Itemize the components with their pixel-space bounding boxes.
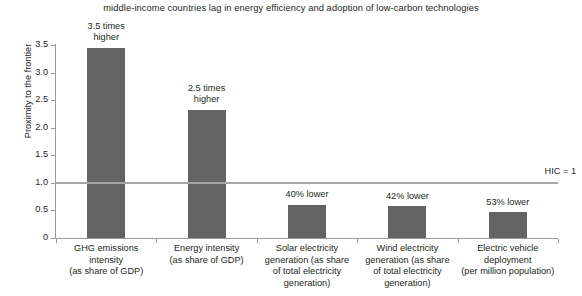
reference-line — [55, 182, 558, 184]
x-category-label-line: intensity — [49, 255, 163, 267]
y-tick-mark — [51, 100, 55, 101]
y-tick-mark — [51, 155, 55, 156]
bar[interactable] — [288, 205, 326, 238]
y-axis-title: Proximity to the frontier — [23, 11, 33, 171]
x-category-label-line: (per million population) — [451, 266, 565, 278]
bar[interactable] — [489, 212, 527, 238]
y-tick-label: 0 — [4, 232, 48, 242]
bar-annotation-line: 3.5 times — [46, 21, 166, 33]
x-category-label-line: deployment — [451, 255, 565, 267]
bar-annotation: 3.5 timeshigher — [46, 21, 166, 44]
x-category-label: Energy intensity(as share of GDP) — [149, 243, 263, 266]
x-category-label-line: of total electricity — [250, 266, 364, 278]
bar[interactable] — [188, 110, 226, 238]
y-tick-label: 1.5 — [4, 149, 48, 159]
x-category-label-line: Solar electricity — [250, 243, 364, 255]
x-category-label-line: GHG emissions — [49, 243, 163, 255]
bar[interactable] — [388, 206, 426, 238]
y-tick-mark — [51, 128, 55, 129]
bar-annotation-line: 2.5 times — [147, 83, 267, 95]
y-axis-line — [55, 44, 56, 239]
bar-annotation-line: 53% lower — [448, 197, 568, 209]
y-tick-label: 2.5 — [4, 94, 48, 104]
x-category-label-line: of total electricity — [350, 266, 464, 278]
bar-annotation-line: higher — [46, 32, 166, 44]
y-tick-mark — [51, 238, 55, 239]
x-category-label-line: Energy intensity — [149, 243, 263, 255]
x-category-label: GHG emissionsintensity(as share of GDP) — [49, 243, 163, 278]
bar-annotation: 53% lower — [448, 197, 568, 209]
y-tick-label: 2.0 — [4, 122, 48, 132]
x-category-label: Wind electricitygeneration (as shareof t… — [350, 243, 464, 289]
bar-annotation: 2.5 timeshigher — [147, 83, 267, 106]
x-category-label-line: generation (as share — [350, 255, 464, 267]
chart-figure: middle-income countries lag in energy ef… — [0, 0, 582, 296]
x-category-label-line: Wind electricity — [350, 243, 464, 255]
x-category-label-line: generation (as share — [250, 255, 364, 267]
bar[interactable] — [87, 48, 125, 238]
x-category-label-line: (as share of GDP) — [49, 266, 163, 278]
x-category-label-line: Electric vehicle — [451, 243, 565, 255]
x-axis-line — [55, 238, 558, 239]
y-tick-mark — [51, 45, 55, 46]
x-category-label: Solar electricitygeneration (as shareof … — [250, 243, 364, 289]
x-category-label: Electric vehicledeployment(per million p… — [451, 243, 565, 278]
y-tick-label: 3.5 — [4, 39, 48, 49]
y-tick-label: 1.0 — [4, 177, 48, 187]
x-category-label-line: (as share of GDP) — [149, 255, 263, 267]
reference-line-label: HIC = 1 — [506, 166, 576, 176]
y-tick-label: 3.0 — [4, 67, 48, 77]
chart-title: middle-income countries lag in energy ef… — [0, 2, 582, 14]
y-tick-label: 0.5 — [4, 204, 48, 214]
y-tick-mark — [51, 210, 55, 211]
bar-annotation-line: higher — [147, 94, 267, 106]
y-tick-mark — [51, 73, 55, 74]
x-category-label-line: generation) — [350, 278, 464, 290]
x-category-label-line: generation) — [250, 278, 364, 290]
